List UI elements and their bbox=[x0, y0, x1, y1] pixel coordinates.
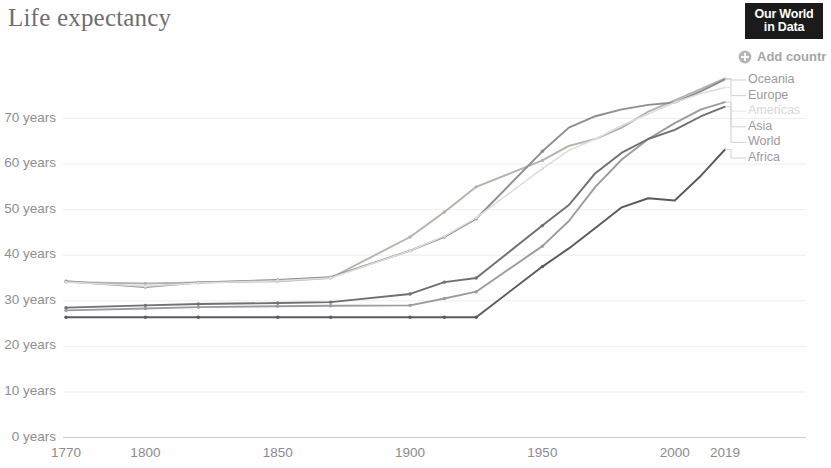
data-point bbox=[541, 244, 544, 247]
y-axis-tick-label: 50 years bbox=[0, 201, 56, 216]
data-point bbox=[443, 210, 446, 213]
y-axis-tick-label: 40 years bbox=[0, 246, 56, 261]
data-point bbox=[64, 280, 67, 283]
data-point bbox=[329, 304, 332, 307]
y-axis-tick-label: 10 years bbox=[0, 383, 56, 398]
chart-plot-area[interactable] bbox=[0, 0, 831, 468]
data-point bbox=[541, 265, 544, 268]
legend-connector-asia bbox=[725, 102, 746, 127]
y-axis-tick-label: 60 years bbox=[0, 155, 56, 170]
data-point bbox=[276, 301, 279, 304]
data-point bbox=[541, 159, 544, 162]
data-point bbox=[475, 290, 478, 293]
series-line-world[interactable] bbox=[66, 107, 725, 308]
y-axis-tick-label: 0 years bbox=[0, 429, 56, 444]
data-point bbox=[64, 306, 67, 309]
y-axis-tick-label: 20 years bbox=[0, 337, 56, 352]
data-point bbox=[276, 315, 279, 318]
legend-connector-africa bbox=[725, 149, 746, 158]
x-axis-tick-label: 2000 bbox=[660, 445, 690, 460]
gridlines bbox=[63, 119, 806, 438]
data-point bbox=[197, 281, 200, 284]
data-point bbox=[408, 292, 411, 295]
data-point bbox=[144, 315, 147, 318]
x-axis-tick-label: 1800 bbox=[130, 445, 160, 460]
y-axis-tick-label: 70 years bbox=[0, 110, 56, 125]
data-point bbox=[541, 167, 544, 170]
legend-item-europe[interactable]: Europe bbox=[748, 88, 831, 104]
chart-legend[interactable]: OceaniaEuropeAmericasAsiaWorldAfrica bbox=[748, 72, 831, 166]
legend-item-africa[interactable]: Africa bbox=[748, 150, 831, 166]
data-point bbox=[276, 305, 279, 308]
x-axis-tick-label: 1770 bbox=[51, 445, 81, 460]
data-point bbox=[64, 315, 67, 318]
legend-connector-world bbox=[725, 107, 746, 143]
series-lines bbox=[66, 78, 725, 317]
x-axis-tick-label: 1850 bbox=[263, 445, 293, 460]
chart-page: Life expectancy Our World in Data Add co… bbox=[0, 0, 831, 468]
data-point bbox=[541, 150, 544, 153]
y-axis-tick-label: 30 years bbox=[0, 292, 56, 307]
legend-item-asia[interactable]: Asia bbox=[748, 119, 831, 135]
data-point bbox=[408, 249, 411, 252]
x-axis-tick-label: 1950 bbox=[527, 445, 557, 460]
data-point bbox=[443, 297, 446, 300]
data-point bbox=[144, 304, 147, 307]
data-point bbox=[329, 276, 332, 279]
data-point bbox=[408, 315, 411, 318]
x-axis-tick-label: 2019 bbox=[710, 445, 740, 460]
data-point bbox=[408, 304, 411, 307]
data-point bbox=[443, 315, 446, 318]
data-point bbox=[144, 285, 147, 288]
data-point bbox=[197, 302, 200, 305]
legend-item-americas[interactable]: Americas bbox=[748, 103, 831, 119]
data-point bbox=[475, 185, 478, 188]
data-point bbox=[197, 315, 200, 318]
data-point bbox=[408, 235, 411, 238]
data-point bbox=[443, 234, 446, 237]
legend-item-oceania[interactable]: Oceania bbox=[748, 72, 831, 88]
data-point bbox=[475, 216, 478, 219]
series-line-africa[interactable] bbox=[66, 149, 725, 317]
data-point bbox=[144, 307, 147, 310]
data-point bbox=[475, 315, 478, 318]
data-point bbox=[541, 224, 544, 227]
data-point bbox=[329, 300, 332, 303]
data-point bbox=[443, 280, 446, 283]
data-point bbox=[276, 279, 279, 282]
data-point bbox=[329, 315, 332, 318]
data-point bbox=[197, 305, 200, 308]
x-axis-tick-label: 1900 bbox=[395, 445, 425, 460]
chart-svg bbox=[0, 0, 831, 468]
legend-connector-americas bbox=[725, 88, 746, 112]
series-line-americas[interactable] bbox=[66, 88, 725, 287]
data-point bbox=[475, 276, 478, 279]
legend-item-world[interactable]: World bbox=[748, 134, 831, 150]
